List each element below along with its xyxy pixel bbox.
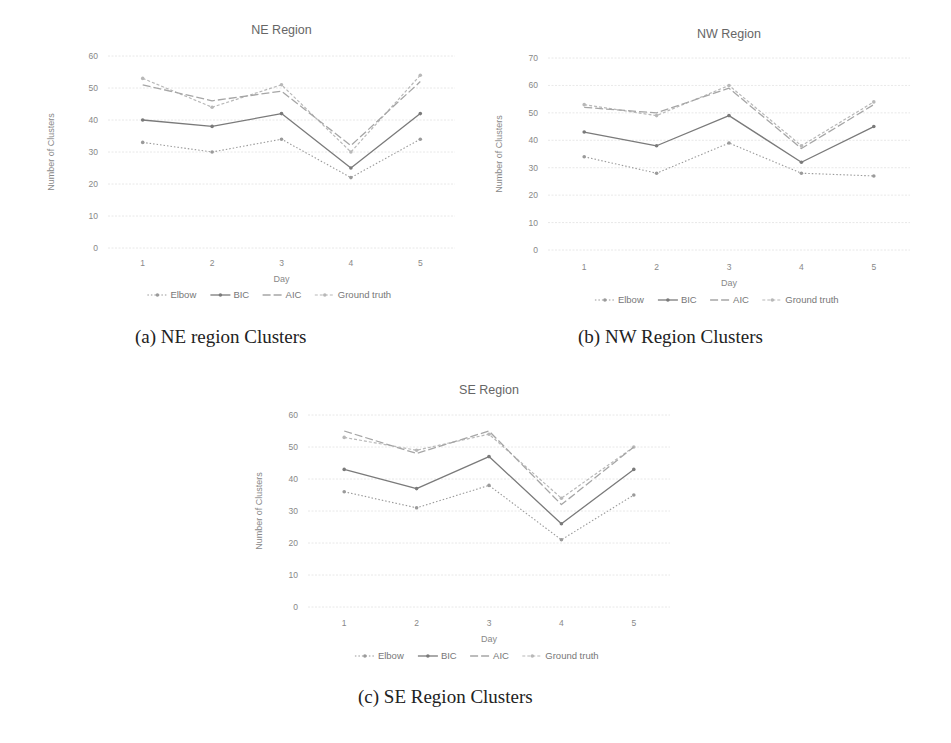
y-tick-label: 30 — [89, 147, 99, 157]
x-axis-label: Day — [481, 634, 498, 644]
x-tick-label: 5 — [871, 262, 876, 272]
legend-label: BIC — [441, 650, 457, 661]
data-point — [800, 171, 804, 175]
y-tick-label: 20 — [529, 190, 539, 200]
y-tick-label: 0 — [533, 245, 538, 255]
legend-marker-icon — [531, 654, 535, 658]
data-point — [655, 144, 659, 148]
y-tick-label: 60 — [89, 51, 99, 61]
data-point — [415, 506, 419, 510]
data-point — [210, 150, 214, 154]
data-point — [342, 468, 346, 472]
data-point — [800, 160, 804, 164]
x-tick-label: 4 — [799, 262, 804, 272]
data-point — [872, 125, 876, 129]
legend-label: BIC — [233, 289, 249, 300]
data-point — [141, 141, 145, 145]
chart-title: NW Region — [697, 27, 761, 41]
x-tick-label: 2 — [210, 258, 215, 268]
data-point — [280, 112, 284, 116]
caption-se: (c) SE Region Clusters — [358, 686, 533, 708]
legend-marker-icon — [603, 298, 607, 302]
x-tick-label: 5 — [631, 618, 636, 628]
x-tick-label: 3 — [487, 618, 492, 628]
series-elbow — [342, 484, 635, 542]
y-tick-label: 50 — [289, 442, 299, 452]
data-point — [560, 496, 564, 500]
data-point — [349, 166, 353, 170]
data-point — [280, 83, 284, 87]
data-point — [415, 487, 419, 491]
y-axis-label: Number of Clusters — [46, 113, 56, 191]
x-tick-label: 4 — [349, 258, 354, 268]
legend-item-elbow: Elbow — [147, 289, 196, 300]
y-tick-label: 60 — [529, 80, 539, 90]
legend-item-ground-truth: Ground truth — [522, 650, 598, 661]
chart-se-region: SE Region010203040506012345DayNumber of … — [240, 380, 680, 675]
x-tick-label: 2 — [654, 262, 659, 272]
x-tick-label: 3 — [279, 258, 284, 268]
data-point — [349, 176, 353, 180]
y-tick-label: 10 — [289, 570, 299, 580]
y-axis-label: Number of Clusters — [254, 472, 264, 550]
legend-label: Ground truth — [545, 650, 598, 661]
legend-item-bic: BIC — [658, 294, 697, 305]
legend-item-elbow: Elbow — [595, 294, 644, 305]
legend-marker-icon — [426, 654, 430, 658]
data-point — [632, 468, 636, 472]
legend-item-ground-truth: Ground truth — [762, 294, 838, 305]
legend-item-bic: BIC — [210, 289, 249, 300]
legend-label: Elbow — [618, 294, 644, 305]
series-bic — [342, 455, 635, 526]
y-tick-label: 50 — [529, 108, 539, 118]
legend-item-ground-truth: Ground truth — [315, 289, 391, 300]
data-point — [280, 137, 284, 141]
x-axis-label: Day — [273, 274, 290, 284]
y-tick-label: 0 — [93, 243, 98, 253]
data-point — [582, 103, 586, 107]
y-tick-label: 10 — [529, 218, 539, 228]
y-tick-label: 70 — [529, 53, 539, 63]
data-point — [415, 448, 419, 452]
data-point — [582, 130, 586, 134]
chart-nw-region: NW Region01020304050607012345DayNumber o… — [490, 20, 920, 315]
series-aic — [344, 431, 634, 505]
series-aic — [584, 88, 874, 148]
data-point — [349, 150, 353, 154]
chart-title: NE Region — [251, 23, 311, 37]
chart-nw-svg: NW Region01020304050607012345DayNumber o… — [490, 20, 920, 315]
legend: ElbowBICAICGround truth — [595, 294, 839, 305]
data-point — [655, 171, 659, 175]
data-point — [487, 432, 491, 436]
x-tick-label: 4 — [559, 618, 564, 628]
legend-marker-icon — [323, 293, 327, 297]
data-point — [419, 112, 423, 116]
data-point — [727, 114, 731, 118]
legend-marker-icon — [771, 298, 775, 302]
y-tick-label: 50 — [89, 83, 99, 93]
legend-item-aic: AIC — [263, 289, 302, 300]
legend-label: Ground truth — [785, 294, 838, 305]
y-tick-label: 30 — [529, 163, 539, 173]
legend-label: AIC — [286, 289, 302, 300]
data-point — [342, 490, 346, 494]
legend-marker-icon — [363, 654, 367, 658]
legend-label: Elbow — [378, 650, 404, 661]
data-point — [487, 455, 491, 459]
data-point — [419, 73, 423, 77]
chart-title: SE Region — [459, 383, 519, 397]
x-tick-label: 5 — [418, 258, 423, 268]
data-point — [210, 125, 214, 129]
legend-label: BIC — [681, 294, 697, 305]
caption-nw: (b) NW Region Clusters — [578, 326, 763, 348]
data-point — [560, 538, 564, 542]
legend-label: AIC — [493, 650, 509, 661]
x-tick-label: 1 — [582, 262, 587, 272]
legend-marker-icon — [219, 293, 223, 297]
legend-label: Elbow — [170, 289, 196, 300]
y-tick-label: 30 — [289, 506, 299, 516]
data-point — [727, 84, 731, 88]
y-tick-label: 20 — [289, 538, 299, 548]
y-tick-label: 60 — [289, 410, 299, 420]
data-point — [632, 493, 636, 497]
